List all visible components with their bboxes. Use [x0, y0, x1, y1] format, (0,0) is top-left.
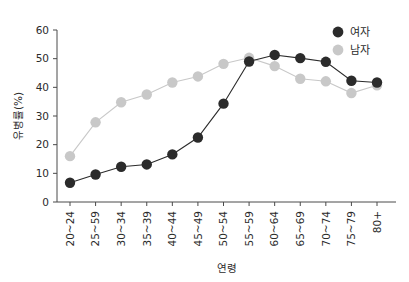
data-point[interactable] [321, 57, 331, 67]
data-point[interactable] [346, 88, 356, 98]
series-line-여자 [70, 55, 377, 183]
legend-label-남자: 남자 [350, 44, 370, 57]
x-tick-label: 60~64 [268, 211, 280, 247]
y-tick-label: 40 [36, 81, 49, 93]
x-axis-ticks: 20~2425~5930~3435~3940~4445~4950~5455~59… [64, 202, 383, 247]
x-axis-title: 연령 [217, 262, 237, 274]
x-tick-label: 25~59 [89, 211, 101, 247]
data-point[interactable] [295, 74, 305, 84]
x-tick-label: 50~54 [217, 211, 229, 247]
data-point[interactable] [193, 71, 203, 81]
data-series-layer [65, 50, 382, 188]
x-tick-label: 70~74 [320, 211, 332, 247]
chart-container: 0102030405060 20~2425~5930~3435~3940~444… [0, 0, 409, 282]
data-point[interactable] [295, 53, 305, 63]
y-tick-label: 20 [36, 138, 49, 150]
data-point[interactable] [218, 59, 228, 69]
data-point[interactable] [65, 151, 75, 161]
data-point[interactable] [65, 178, 75, 188]
y-axis-ticks: 0102030405060 [36, 24, 57, 208]
data-point[interactable] [167, 77, 177, 87]
x-tick-label: 40~44 [166, 211, 178, 247]
x-tick-label: 75~79 [345, 211, 357, 247]
data-point[interactable] [116, 162, 126, 172]
x-tick-label: 30~34 [115, 211, 127, 247]
data-point[interactable] [269, 61, 279, 71]
data-point[interactable] [244, 56, 254, 66]
x-tick-label: 55~59 [243, 211, 255, 247]
y-tick-label: 30 [36, 110, 49, 122]
data-point[interactable] [90, 117, 100, 127]
y-axis-group: 0102030405060 [36, 24, 57, 208]
data-point[interactable] [167, 149, 177, 159]
data-point[interactable] [321, 76, 331, 86]
x-tick-label: 65~69 [294, 211, 306, 247]
data-point[interactable] [218, 98, 228, 108]
data-point[interactable] [372, 77, 382, 87]
data-point[interactable] [116, 97, 126, 107]
data-point[interactable] [193, 132, 203, 142]
y-tick-label: 50 [36, 52, 49, 64]
data-point[interactable] [142, 159, 152, 169]
chart-legend: 여자남자 [333, 26, 370, 57]
x-tick-label: 80+ [371, 211, 383, 233]
y-tick-label: 60 [36, 24, 49, 36]
legend-marker-여자 [333, 27, 344, 38]
data-point[interactable] [90, 169, 100, 179]
data-point[interactable] [269, 50, 279, 60]
y-tick-label: 0 [42, 196, 49, 208]
x-tick-label: 20~24 [64, 211, 76, 247]
data-point[interactable] [346, 76, 356, 86]
legend-label-여자: 여자 [350, 26, 370, 39]
y-axis-title: 유병률(%) [12, 92, 24, 140]
prevalence-by-age-line-chart: 0102030405060 20~2425~5930~3435~3940~444… [0, 0, 409, 282]
y-tick-label: 10 [36, 167, 49, 179]
x-axis-group: 20~2425~5930~3435~3940~4445~4950~5455~59… [57, 202, 396, 247]
data-point[interactable] [142, 89, 152, 99]
x-tick-label: 45~49 [192, 211, 204, 247]
legend-marker-남자 [333, 45, 344, 56]
x-tick-label: 35~39 [141, 211, 153, 247]
